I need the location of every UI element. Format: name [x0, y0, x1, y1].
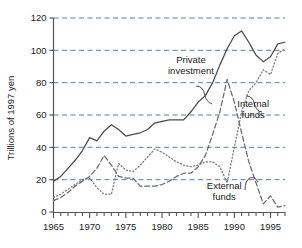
y-tick-label-100: 100 [31, 45, 47, 56]
x-tick-label-1980: 1980 [151, 221, 172, 232]
y-tick-label-40: 40 [36, 142, 47, 153]
x-tick-label-1970: 1970 [79, 221, 100, 232]
annotation-private-investment-line2: investment [168, 65, 214, 76]
y-axis-title: Trillions of 1997 yen [5, 76, 16, 161]
x-tick-label-1985: 1985 [188, 221, 209, 232]
annotation-internal-funds-line2: funds [242, 109, 265, 120]
y-tick-label-20: 20 [36, 174, 47, 185]
x-tick-label-1995: 1995 [260, 221, 281, 232]
chart-figure: 020406080100120 196519701975198019851990… [0, 0, 302, 248]
annotation-internal-funds-line1: Internal [237, 98, 269, 109]
y-tick-label-0: 0 [41, 206, 46, 217]
y-tick-label-80: 80 [36, 77, 47, 88]
annotation-external-funds-line1: External [207, 180, 242, 191]
annotation-private-investment-line1: Private [176, 54, 206, 65]
x-tick-label-1965: 1965 [43, 221, 64, 232]
y-tick-label-120: 120 [31, 12, 47, 23]
annotation-external-funds-line2: funds [213, 191, 236, 202]
y-tick-label-60: 60 [36, 109, 47, 120]
x-tick-label-1990: 1990 [224, 221, 245, 232]
x-tick-label-1975: 1975 [115, 221, 136, 232]
line-chart: 020406080100120 196519701975198019851990… [0, 0, 302, 248]
